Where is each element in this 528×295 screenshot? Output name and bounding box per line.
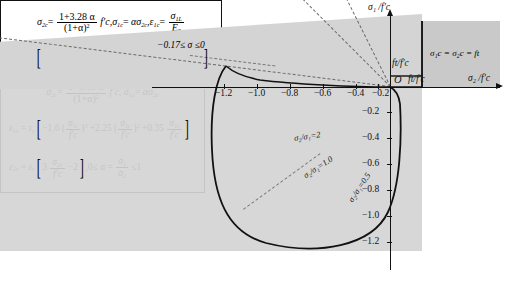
y-tick (387, 216, 392, 217)
stress-envelope-plot: σ₁ /f'c σ₂ /f'c O ft/f'c ft/f'c −1.2 −1.… (232, 0, 528, 295)
b1l2-bracket-close: ] (203, 52, 207, 64)
b1l1-den-wrap: (1+α)2 (57, 23, 97, 34)
x-tick-label: −0.6 (314, 88, 331, 98)
y-axis-label: σ₁ /f'c (368, 2, 390, 12)
x-tick-label: −1.2 (215, 88, 232, 98)
b1l1-t3-sub: 1c (154, 21, 160, 28)
b2l2-bracket-close: ] (184, 123, 188, 135)
tension-label-y: ft/f'c (392, 58, 409, 68)
origin-label: O (394, 74, 402, 85)
x-tick-label: −0.8 (281, 88, 298, 98)
y-tick-label: −0.2 (362, 106, 379, 116)
x-axis-label: σ₂ /f'c (468, 73, 490, 83)
b1l1-t3-num-sub: 1L (175, 15, 182, 22)
b1l1-den: (1+α) (64, 22, 87, 33)
b1l1-fraction: 1+3.28 α (1+α)2 (57, 12, 97, 34)
b1l1-den-sup: 2 (87, 22, 90, 29)
y-tick (387, 242, 392, 243)
b1l1-fc: f'c (100, 16, 109, 27)
tension-region-label: σ₁c = σ₂c = ft (430, 48, 479, 58)
b1l1-t2-sub: 1c (117, 21, 123, 28)
y-tick-label: −0.4 (362, 132, 379, 142)
y-tick (387, 190, 392, 191)
figure-root: σ₁ /f'c σ₂ /f'c O ft/f'c ft/f'c −1.2 −1.… (0, 0, 528, 295)
b1l1-t2-rhs: ασ (131, 16, 141, 27)
tension-label-x: ft/f'c (408, 74, 425, 84)
b2l3-bracket-close: ] (80, 162, 84, 174)
b2l2-bracket-open: [ (36, 123, 40, 135)
y-tick (387, 112, 392, 113)
b1l2-bracket-open: [ (36, 52, 40, 64)
x-tick-label: −1.0 (248, 88, 265, 98)
b1l1-lhs-sub: 2c (42, 21, 48, 28)
failure-envelope-curve (232, 0, 528, 295)
x-tick-label: −0.2 (372, 88, 389, 98)
alpha-range-annotation: −0.17≤ σ ≤0 (157, 40, 205, 50)
b2l3-bracket-open: [ (36, 162, 40, 174)
b1l1-t2-rhs-sub: 2c (141, 21, 147, 28)
y-tick-label: −0.6 (362, 158, 379, 168)
y-tick (387, 138, 392, 139)
y-tick (387, 164, 392, 165)
y-tick-label: −1.0 (362, 210, 379, 220)
y-tick-label: −1.2 (362, 236, 379, 246)
x-tick-label: −0.4 (347, 88, 364, 98)
